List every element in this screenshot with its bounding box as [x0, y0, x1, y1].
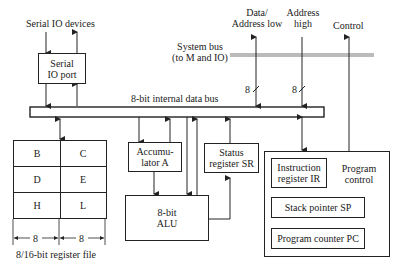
serial-io-devices-label: Serial IO devices [26, 18, 95, 29]
alu-line2: ALU [157, 218, 178, 229]
program-control-box: Instruction register IR Program control … [264, 151, 390, 257]
control-label: Control [333, 20, 364, 31]
accumulator-line2: lator A [141, 157, 169, 168]
status-register-line2: register SR [209, 158, 254, 169]
register-width-right-label: 8 [79, 233, 84, 244]
program-counter-box: Program counter PC [271, 228, 365, 249]
register-h: H [14, 193, 61, 218]
alu-line1: 8-bit [158, 207, 177, 218]
register-file-grid: B C D E H L [13, 140, 107, 219]
status-register-box: Status register SR [204, 143, 259, 173]
alu-box: 8-bit ALU [125, 195, 209, 241]
instruction-register-box: Instruction register IR [271, 158, 327, 188]
instruction-register-line2: register IR [278, 173, 321, 184]
address-high-label: Address high [285, 7, 321, 29]
data-address-low-label: Data/ Address low [230, 7, 284, 29]
register-b: B [14, 141, 61, 167]
register-l: L [60, 193, 106, 218]
stack-pointer-box: Stack pointer SP [271, 197, 365, 218]
register-file-caption: 8/16-bit register file [16, 249, 96, 260]
bus-width-high-label: 8 [292, 84, 297, 95]
accumulator-line1: Accumu- [136, 146, 173, 157]
program-control-label: Program control [331, 160, 387, 188]
register-d: D [14, 167, 61, 193]
serial-io-port-line1: Serial [50, 58, 73, 69]
internal-data-bus-label: 8-bit internal data bus [131, 93, 218, 104]
accumulator-box: Accumu- lator A [128, 142, 182, 172]
register-e: E [60, 167, 106, 193]
register-width-left-label: 8 [33, 233, 38, 244]
serial-io-port-box: Serial IO port [38, 53, 86, 84]
instruction-register-line1: Instruction [277, 162, 320, 173]
status-register-line1: Status [219, 147, 243, 158]
internal-data-bus [30, 107, 324, 117]
bus-width-low-label: 8 [245, 84, 250, 95]
serial-io-port-line2: IO port [47, 69, 76, 80]
register-c: C [60, 141, 106, 167]
alu-to-status-arrow [208, 178, 230, 219]
system-bus-label: System bus (to M and IO) [165, 41, 235, 63]
